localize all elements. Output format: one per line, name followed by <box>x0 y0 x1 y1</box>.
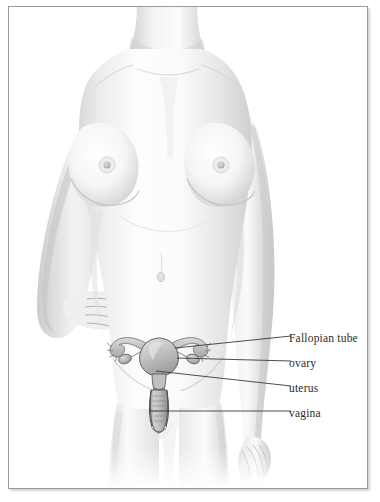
nipple-left <box>103 161 110 168</box>
label-vagina: vagina <box>289 407 321 419</box>
label-ovary: ovary <box>289 357 316 369</box>
label-uterus: uterus <box>289 382 318 394</box>
navel <box>157 272 164 281</box>
nipple-right <box>217 161 224 168</box>
bottom-fade <box>9 447 367 488</box>
illustration-page: Fallopian tube ovary uterus vagina <box>0 0 380 502</box>
vaginal-canal <box>150 390 167 433</box>
cervix <box>152 374 166 390</box>
label-fallopian-tube: Fallopian tube <box>289 332 358 344</box>
illustration-frame: Fallopian tube ovary uterus vagina <box>8 6 368 489</box>
